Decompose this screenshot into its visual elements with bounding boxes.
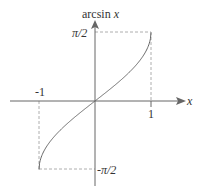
y-tick-pi-over-2: π/2 <box>72 27 87 39</box>
diagram-canvas <box>0 0 200 190</box>
x-tick-neg-1-label: -1 <box>35 86 45 98</box>
axes <box>10 25 180 186</box>
x-axis-label: x <box>187 95 192 107</box>
arcsin-diagram: arcsin x π/2 -π/2 -1 1 x <box>0 0 200 190</box>
y-axis-label: arcsin x <box>82 8 119 20</box>
x-tick-1-label: 1 <box>148 108 154 120</box>
y-tick-neg-pi-over-2: -π/2 <box>97 164 116 176</box>
